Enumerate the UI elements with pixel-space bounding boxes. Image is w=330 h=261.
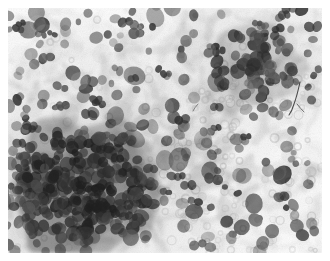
screenshot-root: Grayscale photomicrograph of a cytology … — [0, 0, 330, 261]
film-grain-layer — [8, 8, 322, 253]
microscopy-field — [8, 8, 322, 253]
field-vignette — [8, 8, 322, 253]
erythrocyte-ring-layer — [8, 8, 322, 253]
cell-nuclei-layer — [8, 8, 322, 253]
cytoplasm-smear-layer — [8, 8, 322, 253]
stroma-layer — [8, 8, 322, 253]
